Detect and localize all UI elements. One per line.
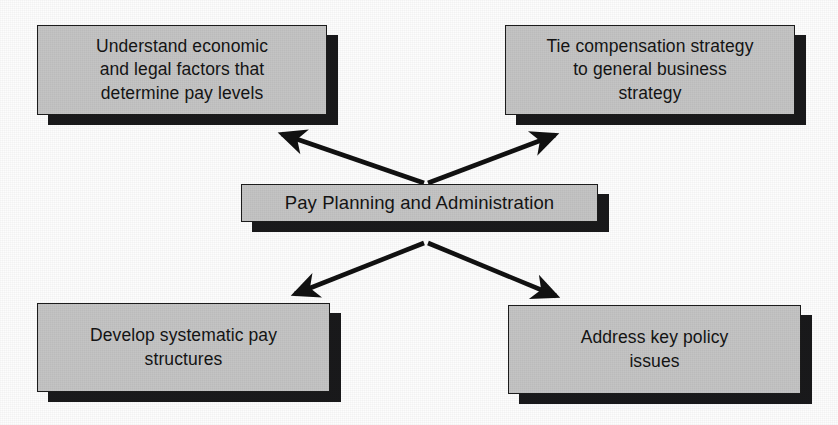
- node-top-left[interactable]: Understand economic and legal factors th…: [37, 25, 327, 115]
- node-face: Develop systematic pay structures: [37, 303, 330, 392]
- node-face: Address key policy issues: [508, 305, 801, 394]
- node-label: Pay Planning and Administration: [275, 192, 564, 214]
- node-center-pay-planning[interactable]: Pay Planning and Administration: [241, 184, 598, 222]
- node-label: Address key policy issues: [571, 326, 739, 373]
- diagram-canvas: Understand economic and legal factors th…: [0, 0, 838, 425]
- node-label: Tie compensation strategy to general bus…: [536, 35, 763, 105]
- connector-center-to-top-left: [282, 134, 424, 183]
- node-face: Pay Planning and Administration: [241, 184, 598, 222]
- connector-center-to-top-right: [428, 135, 555, 183]
- node-label: Develop systematic pay structures: [80, 324, 287, 371]
- connector-center-to-bottom-left: [295, 243, 424, 294]
- node-bottom-left[interactable]: Develop systematic pay structures: [37, 303, 330, 392]
- node-bottom-right[interactable]: Address key policy issues: [508, 305, 801, 394]
- connector-center-to-bottom-right: [428, 243, 556, 296]
- node-face: Tie compensation strategy to general bus…: [505, 25, 795, 115]
- node-label: Understand economic and legal factors th…: [86, 35, 278, 105]
- node-face: Understand economic and legal factors th…: [37, 25, 327, 115]
- node-top-right[interactable]: Tie compensation strategy to general bus…: [505, 25, 795, 115]
